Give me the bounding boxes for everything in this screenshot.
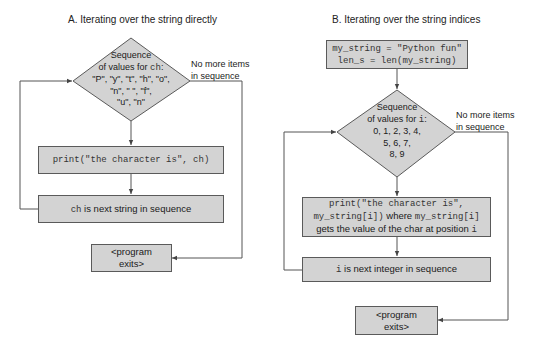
decision-a-line4: "n", " ", "f",: [78, 86, 184, 98]
init-box-b: my_string = "Python fun" len_s = len(my_…: [326, 40, 468, 69]
exit-label-a: No more items in sequence: [191, 58, 250, 82]
decision-b-line1: Sequence: [344, 102, 450, 114]
decision-b-line2: of values for i:: [344, 114, 450, 127]
diagram-b-title: B. Iterating over the string indices: [332, 14, 480, 25]
decision-b-text: Sequence of values for i: 0, 1, 2, 3, 4,…: [344, 102, 450, 161]
diagram-a-title: A. Iterating over the string directly: [68, 14, 217, 25]
next-item-box-a: ch is next string in sequence: [38, 195, 224, 223]
next-item-box-b: i is next integer in sequence: [302, 257, 491, 282]
decision-a-line5: "u", "n": [78, 97, 184, 109]
program-exits-box-a: <program exits>: [91, 244, 172, 272]
print-box-b: print("the character is", my_string[i]) …: [302, 197, 491, 237]
print-box-a: print("the character is", ch): [38, 146, 224, 174]
decision-b-line4: 5, 6, 7,: [344, 138, 450, 150]
decision-b-line5: 8, 9: [344, 149, 450, 161]
decision-a-text: Sequence of values for ch: "P", "y", "t"…: [78, 50, 184, 109]
program-exits-box-b: <program exits>: [355, 306, 438, 335]
decision-b-line3: 0, 1, 2, 3, 4,: [344, 126, 450, 138]
exit-label-b: No more items in sequence: [456, 109, 515, 133]
decision-a-line1: Sequence: [78, 50, 184, 62]
decision-a-line2: of values for ch:: [78, 62, 184, 75]
decision-a-line3: "P", "y", "t", "h", "o",: [78, 74, 184, 86]
